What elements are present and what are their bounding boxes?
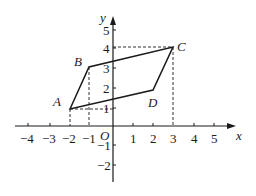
svg-text:3: 3: [170, 131, 177, 146]
point-label-A: A: [52, 94, 61, 109]
svg-text:−1: −1: [82, 131, 96, 146]
svg-text:4: 4: [191, 131, 198, 146]
svg-text:−1: −1: [97, 138, 111, 153]
svg-text:1: 1: [103, 101, 110, 116]
svg-text:−3: −3: [42, 131, 56, 146]
point-label-D: D: [147, 95, 158, 110]
svg-text:5: 5: [103, 23, 110, 38]
svg-text:5: 5: [211, 131, 218, 146]
point-label-B: B: [74, 54, 82, 69]
svg-text:−2: −2: [62, 131, 76, 146]
svg-text:2: 2: [150, 131, 157, 146]
svg-text:−4: −4: [20, 131, 34, 146]
svg-text:3: 3: [103, 61, 110, 76]
point-label-C: C: [177, 39, 186, 54]
svg-text:2: 2: [103, 81, 110, 96]
x-axis-arrow-icon: [227, 123, 236, 129]
x-tick-labels: −4 −3 −2 −1 1 2 3 4 5: [20, 131, 218, 146]
svg-text:1: 1: [130, 131, 137, 146]
y-tick-labels: 5 4 3 2 1 −1 −2: [97, 23, 111, 173]
axes: [15, 20, 233, 182]
coordinate-diagram: A B C D x y O −4 −3 −2 −1 1 2 3 4 5 5 4 …: [0, 0, 256, 196]
y-axis-arrow-icon: [110, 16, 116, 25]
parallelogram-ABCD: [70, 47, 173, 109]
x-axis-label: x: [235, 128, 242, 143]
svg-text:−2: −2: [97, 158, 111, 173]
svg-text:4: 4: [103, 41, 110, 56]
